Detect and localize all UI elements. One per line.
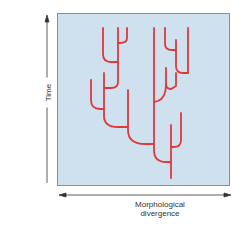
x-axis-label-line1: Morphological [105, 200, 215, 209]
x-axis-label: Morphological divergence [105, 200, 215, 218]
x-axis-label-line2: divergence [105, 209, 215, 218]
y-axis-label: Time [44, 78, 53, 108]
x-axis-arrow [59, 193, 231, 197]
divergence-diagram [0, 0, 242, 233]
plot-panel [58, 14, 230, 186]
